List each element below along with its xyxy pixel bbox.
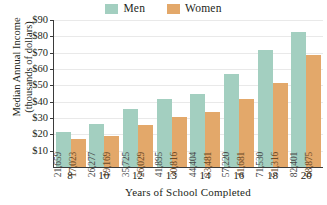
y-axis-tick-label: $30 bbox=[32, 113, 48, 124]
bar-chart: Men Women Median Annual Income (thousand… bbox=[0, 0, 327, 205]
bar-men-20: 82,401 bbox=[291, 32, 306, 167]
bar-group: 21,65917,023 bbox=[56, 20, 86, 167]
x-axis-tick-label: 18 bbox=[257, 170, 287, 181]
y-axis-tick-label: $50 bbox=[32, 80, 48, 91]
plot-area: $10$20$30$40$50$60$70$80$90 21,65917,023… bbox=[53, 20, 323, 168]
legend-label-men: Men bbox=[123, 3, 145, 15]
y-axis-title-line1: Median Annual Income bbox=[11, 17, 24, 116]
bar-women-8: 17,023 bbox=[71, 139, 86, 167]
y-axis-tick-label: $70 bbox=[32, 47, 48, 58]
bar-group: 44,40433,481 bbox=[190, 20, 220, 167]
x-axis-tick-label: 12 bbox=[122, 170, 152, 181]
legend-label-women: Women bbox=[185, 3, 221, 15]
x-axis-tick-label: 14 bbox=[190, 170, 220, 181]
x-axis-title: Years of School Completed bbox=[53, 187, 323, 198]
bar-women-18: 51,316 bbox=[273, 83, 288, 167]
legend-swatch-women bbox=[167, 4, 180, 14]
x-axis-tick-label: 13 bbox=[156, 170, 186, 181]
y-axis-tick-label: $40 bbox=[32, 96, 48, 107]
bar-group: 57,22041,681 bbox=[224, 20, 254, 167]
bar-group: 41,89530,816 bbox=[157, 20, 187, 167]
bar-men-18: 71,530 bbox=[258, 50, 273, 167]
bar-group: 35,72526,029 bbox=[123, 20, 153, 167]
bar-women-14: 33,481 bbox=[205, 112, 220, 167]
bar-women-10: 19,169 bbox=[104, 136, 119, 167]
y-axis-tick-label: $20 bbox=[32, 129, 48, 140]
legend-item-men: Men bbox=[105, 3, 145, 15]
x-axis-tick-labels: 810121314161820 bbox=[53, 170, 323, 186]
bar-group: 26,27719,169 bbox=[89, 20, 119, 167]
y-axis-tick-label: $10 bbox=[32, 145, 48, 156]
y-axis-tick-label: $90 bbox=[32, 15, 48, 26]
bar-group: 71,53051,316 bbox=[258, 20, 288, 167]
bar-women-16: 41,681 bbox=[239, 99, 254, 167]
bar-women-12: 26,029 bbox=[138, 125, 153, 168]
x-axis-tick-label: 10 bbox=[89, 170, 119, 181]
chart-legend: Men Women bbox=[0, 1, 327, 17]
legend-item-women: Women bbox=[167, 3, 221, 15]
bar-group: 82,40168,875 bbox=[291, 20, 321, 167]
bar-women-13: 30,816 bbox=[172, 117, 187, 167]
x-axis-tick-label: 16 bbox=[224, 170, 254, 181]
y-axis-tick-label: $80 bbox=[32, 31, 48, 42]
bar-women-20: 68,875 bbox=[306, 55, 321, 167]
legend-swatch-men bbox=[105, 4, 118, 14]
bar-groups: 21,65917,02326,27719,16935,72526,02941,8… bbox=[54, 20, 323, 167]
x-axis-tick-label: 20 bbox=[291, 170, 321, 181]
x-axis-tick-label: 8 bbox=[55, 170, 85, 181]
y-axis-tick-label: $60 bbox=[32, 64, 48, 75]
